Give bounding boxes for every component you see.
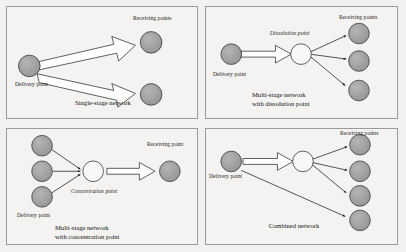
receiving-point-label: Receiving point <box>147 141 183 148</box>
receiving-node <box>350 186 371 207</box>
delivery-node <box>32 161 53 182</box>
delivery-node <box>32 135 53 156</box>
link-delivery-to-receiving-4-direct <box>241 170 345 216</box>
panel-caption: Combined network <box>224 222 364 231</box>
dissolution-node <box>291 44 312 65</box>
concentration-node <box>83 161 104 182</box>
receiving-points-label: Receiving points <box>340 130 379 137</box>
dissolution-point-label: Dissolution point <box>270 30 310 37</box>
block-arrow-to-hub <box>243 153 293 171</box>
delivery-point-label: Delivery point <box>213 71 246 78</box>
panel-caption: Multi-stage network with dissolution poi… <box>252 91 362 108</box>
panel-multistage-dissolution-network: Receiving points Dissolution point Deliv… <box>205 6 398 119</box>
receiving-node <box>140 32 162 54</box>
panel-caption: Single-stage network <box>7 99 199 108</box>
receiving-node <box>350 161 371 182</box>
block-arrow-to-receiving-1 <box>37 36 135 69</box>
receiving-node <box>349 51 370 72</box>
panel-caption: Multi-stage network with concentration p… <box>55 224 175 241</box>
panel-combined-network: Receiving points Delivery point Combined… <box>205 128 398 245</box>
delivery-node <box>32 187 53 208</box>
delivery-node <box>19 55 41 77</box>
concentration-point-label: Concentration point <box>71 188 117 195</box>
link-hub-to-receiving-1 <box>310 35 346 52</box>
delivery-point-label: Delivery point <box>15 81 48 88</box>
block-arrow-to-receiving-point <box>107 162 155 180</box>
receiving-node <box>350 134 371 155</box>
link-hub-to-receiving-3 <box>310 56 345 85</box>
delivery-point-label: Delivery point <box>17 212 50 219</box>
receiving-points-label: Receiving points <box>339 14 378 21</box>
delivery-point-label: Delivery point <box>209 173 242 180</box>
link-hub-to-receiving-2 <box>310 54 346 59</box>
receiving-node <box>160 161 181 182</box>
panel-single-stage-network: Receiving points Delivery point Single-s… <box>6 6 198 119</box>
delivery-node <box>221 151 242 172</box>
receiving-node <box>349 23 370 44</box>
panel-multistage-concentration-network: Receiving point Concentration point Deli… <box>6 128 198 245</box>
link-hub-to-receiving-1 <box>312 147 347 160</box>
block-arrow-to-dissolution-point <box>241 45 291 63</box>
receiving-points-label: Receiving points <box>133 15 172 22</box>
link-delivery-1-to-hub <box>52 150 81 170</box>
hub-node <box>293 151 314 172</box>
delivery-node <box>221 44 242 65</box>
network-topology-figure: Receiving points Delivery point Single-s… <box>0 0 406 252</box>
